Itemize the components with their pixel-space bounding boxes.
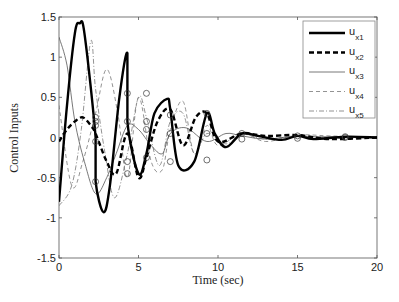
x-tick-label: 10 bbox=[212, 261, 224, 273]
y-tick-labels: -1.5-1-0.500.511.5 bbox=[37, 11, 56, 264]
x-tick-labels: 05101520 bbox=[56, 261, 383, 273]
y-tick-label: 0 bbox=[50, 132, 56, 144]
x-axis-label: Time (sec) bbox=[192, 273, 243, 287]
y-tick-label: 0.5 bbox=[41, 91, 56, 103]
y-axis-label: Control Inputs bbox=[7, 103, 21, 173]
y-tick-label: 1 bbox=[50, 51, 56, 63]
control-inputs-chart: -1.5-1-0.500.511.5 05101520 Time (sec) C… bbox=[0, 0, 399, 302]
legend: ux1ux2ux3ux4ux5 bbox=[303, 21, 375, 120]
x-tick-label: 0 bbox=[56, 261, 62, 273]
y-tick-label: -1 bbox=[46, 212, 56, 224]
x-tick-label: 20 bbox=[371, 261, 383, 273]
x-tick-label: 5 bbox=[135, 261, 141, 273]
y-tick-label: -1.5 bbox=[37, 252, 56, 264]
legend-box bbox=[303, 21, 375, 118]
y-tick-label: 1.5 bbox=[41, 11, 56, 23]
y-tick-label: -0.5 bbox=[37, 172, 56, 184]
x-tick-label: 15 bbox=[291, 261, 303, 273]
